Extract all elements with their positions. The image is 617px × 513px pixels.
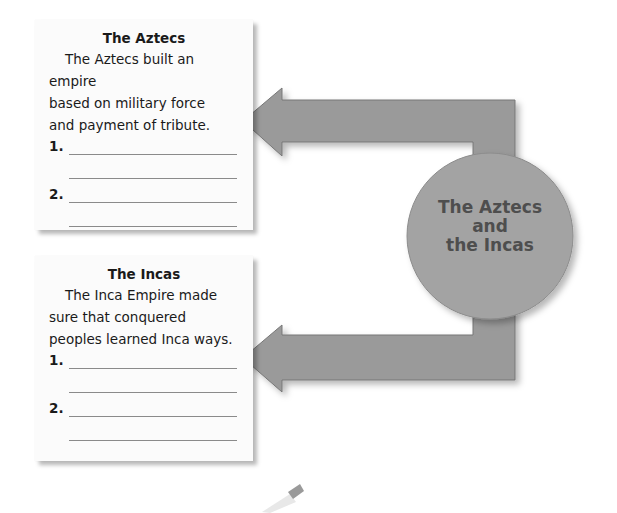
body-line: peoples learned Inca ways. [49,331,233,347]
answer-blank-2[interactable]: 2. [49,184,239,208]
hub-label-line3: the Incas [407,236,573,255]
body-line: and payment of tribute. [49,117,210,133]
body-line: The Aztecs built an empire [49,51,194,89]
answer-line[interactable] [69,368,237,369]
hub-label-line1: The Aztecs [407,198,573,217]
answer-line[interactable] [69,392,237,393]
card-title: The Incas [49,264,239,284]
pencil-icon [262,484,304,513]
incas-card: The Incas The Inca Empire made sure that… [35,256,253,461]
answer-line[interactable] [69,226,237,227]
answer-line[interactable] [69,416,237,417]
blank-number: 2. [49,400,64,416]
answer-blank-1-continued[interactable] [49,374,239,398]
hub-label-line2: and [407,217,573,236]
body-line: sure that conquered [49,309,186,325]
arrow-to-aztecs [243,88,515,160]
card-body: The Inca Empire made sure that conquered… [49,284,239,350]
card-body: The Aztecs built an empire based on mili… [49,48,239,136]
blank-number: 1. [49,138,64,154]
blank-number: 2. [49,186,64,202]
hub-label: The Aztecs and the Incas [407,198,573,255]
aztecs-card: The Aztecs The Aztecs built an empire ba… [35,20,253,230]
answer-blank-2-continued[interactable] [49,208,239,232]
blank-number: 1. [49,352,64,368]
answer-blank-1[interactable]: 1. [49,136,239,160]
body-line: based on military force [49,95,205,111]
arrow-to-incas [243,310,515,392]
answer-blank-1-continued[interactable] [49,160,239,184]
answer-line[interactable] [69,178,237,179]
answer-line[interactable] [69,202,237,203]
answer-line[interactable] [69,154,237,155]
card-title: The Aztecs [49,28,239,48]
body-line: The Inca Empire made [65,287,217,303]
answer-blank-2-continued[interactable] [49,422,239,446]
answer-blank-2[interactable]: 2. [49,398,239,422]
answer-line[interactable] [69,440,237,441]
answer-blank-1[interactable]: 1. [49,350,239,374]
